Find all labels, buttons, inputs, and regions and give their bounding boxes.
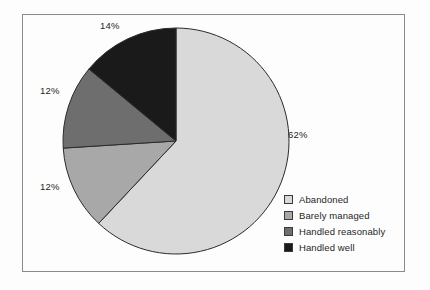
legend-item-label: Handled reasonably [299, 226, 385, 237]
legend-swatch-icon [284, 211, 293, 220]
legend-item: Abandoned [284, 191, 402, 207]
legend-item-label: Barely managed [299, 210, 370, 221]
legend-item: Handled well [284, 239, 402, 255]
legend-item: Barely managed [284, 207, 402, 223]
slice-label-barely-managed: 12% [40, 181, 60, 192]
legend-item-label: Abandoned [299, 194, 349, 205]
legend-swatch-icon [284, 227, 293, 236]
slice-label-handled-well: 14% [100, 20, 120, 31]
chart-legend: Abandoned Barely managed Handled reasona… [284, 191, 402, 255]
legend-swatch-icon [284, 195, 293, 204]
slice-label-handled-reasonably: 12% [40, 85, 60, 96]
legend-swatch-icon [284, 243, 293, 252]
legend-item-label: Handled well [299, 242, 355, 253]
legend-item: Handled reasonably [284, 223, 402, 239]
slice-label-abandoned: 62% [288, 129, 308, 140]
pie-slice-group [63, 28, 289, 254]
pie-chart-figure: 14% 12% 12% 62% Abandoned Barely managed… [0, 0, 430, 290]
